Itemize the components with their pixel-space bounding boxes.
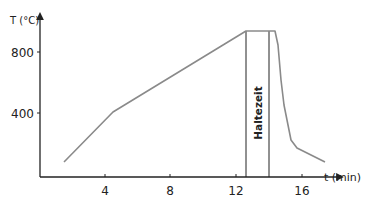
y-tick-label-800: 800 [11, 46, 34, 60]
chart-canvas: T (°C) 800 400 4 8 12 16 t (min) Halteze… [0, 0, 370, 208]
x-tick-label-8: 8 [166, 184, 174, 198]
x-axis-label: t (min) [324, 171, 361, 184]
temperature-curve [64, 31, 325, 162]
x-tick-label-16: 16 [294, 184, 309, 198]
x-tick-label-4: 4 [101, 184, 109, 198]
x-tick-label-12: 12 [228, 184, 243, 198]
y-tick-label-400: 400 [11, 107, 34, 121]
hold-time-label: Haltezeit [252, 86, 264, 139]
y-axis-label: T (°C) [9, 15, 39, 26]
